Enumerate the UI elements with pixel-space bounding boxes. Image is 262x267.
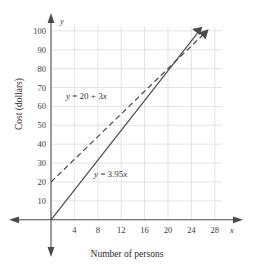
x-axis-title: Number of persons <box>91 249 164 259</box>
series-solid-line <box>51 27 203 220</box>
y-tick-label-60: 60 <box>38 101 47 111</box>
dashed-line-path <box>51 35 203 182</box>
equation-solid-rhs-var: x <box>122 169 127 179</box>
equation-solid-rhs-const: 3.95 <box>108 169 124 179</box>
y-axis-title: Cost (dollars) <box>14 78 24 130</box>
y-tick-label-70: 70 <box>38 83 47 93</box>
equation-label-solid: y = 3.95x <box>93 169 127 179</box>
equation-dashed-rhs-var: x <box>102 91 107 101</box>
x-tick-label-24: 24 <box>187 225 196 235</box>
y-tick-label-90: 90 <box>38 45 47 55</box>
x-axis-title-wrapper: Number of persons <box>52 243 202 261</box>
x-tick-label-20: 20 <box>164 225 173 235</box>
equation-solid-eq: = <box>98 169 108 179</box>
y-tick-labels: 100 90 80 70 60 50 40 30 20 10 <box>33 26 46 206</box>
horizontal-gridlines <box>51 31 222 201</box>
y-tick-label-100: 100 <box>33 26 46 36</box>
chart-figure: 100 90 80 70 60 50 40 30 20 10 4 8 12 16… <box>0 0 262 267</box>
equation-dashed-rhs-const: 20 + 3 <box>80 91 104 101</box>
y-tick-label-80: 80 <box>38 64 47 74</box>
y-tick-label-20: 20 <box>38 177 47 187</box>
x-axis-variable-glyph: x <box>229 225 234 235</box>
vertical-gridlines <box>74 26 214 220</box>
x-tick-label-12: 12 <box>117 225 126 235</box>
x-axis-left-arrowhead <box>9 216 19 223</box>
equation-dashed-eq: = <box>70 91 80 101</box>
y-tick-label-40: 40 <box>38 139 47 149</box>
y-tick-label-10: 10 <box>38 196 47 206</box>
x-axis-right-arrowhead <box>233 216 243 223</box>
y-tick-label-50: 50 <box>38 120 47 130</box>
equation-label-dashed: y = 20 + 3x <box>65 91 107 101</box>
solid-line-path <box>51 33 197 220</box>
y-axis-variable-glyph: y <box>59 16 64 26</box>
y-axis-title-wrapper: Cost (dollars) <box>8 49 26 159</box>
x-tick-label-28: 28 <box>211 225 220 235</box>
x-tick-label-16: 16 <box>140 225 149 235</box>
x-tick-labels: 4 8 12 16 20 24 28 <box>72 225 219 235</box>
x-tick-label-4: 4 <box>72 225 77 235</box>
x-tick-label-8: 8 <box>96 225 100 235</box>
y-tick-label-30: 30 <box>38 158 47 168</box>
y-axis-up-arrowhead <box>48 13 55 23</box>
line-chart-canvas: 100 90 80 70 60 50 40 30 20 10 4 8 12 16… <box>0 0 262 267</box>
